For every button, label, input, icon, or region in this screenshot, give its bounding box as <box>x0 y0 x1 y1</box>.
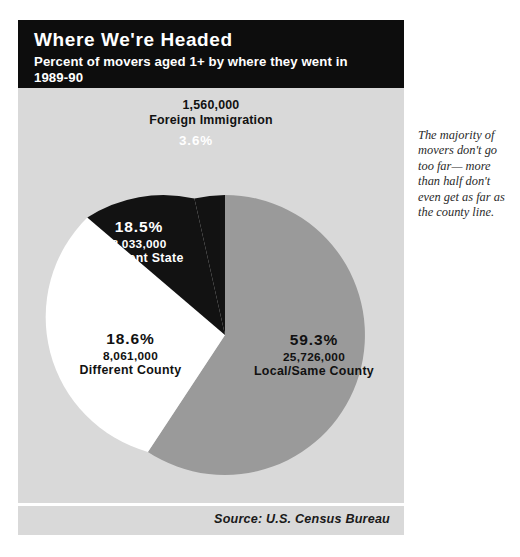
slice-percent-different-county: 18.6% <box>53 332 208 346</box>
pie-chart: 1,560,000 Foreign Immigration 3.6% 18.5%… <box>18 88 404 503</box>
source-attribution: Source: U.S. Census Bureau <box>214 512 390 526</box>
slice-percent-foreign-immigration: 3.6% <box>161 134 231 148</box>
slice-label-different-state: 18.5% 8,033,000 Different State <box>64 220 214 265</box>
slice-count-different-county: 8,061,000 <box>53 349 208 363</box>
pie-chart-svg <box>18 88 404 503</box>
page-title: Where We're Headed <box>34 29 404 51</box>
slice-name-different-county: Different County <box>53 363 208 377</box>
slice-name-local-same-county: Local/Same County <box>230 364 398 378</box>
callout-foreign-value: 1,560,000 <box>183 98 240 112</box>
callout-foreign-label: Foreign Immigration <box>149 113 273 127</box>
slice-label-different-county: 18.6% 8,061,000 Different County <box>53 332 208 377</box>
slice-percent-local-same-county: 59.3% <box>230 333 398 347</box>
pull-quote: The majority of movers don't go too far—… <box>418 128 512 220</box>
infographic-panel: Where We're Headed Percent of movers age… <box>18 20 404 535</box>
figure-header: Where We're Headed Percent of movers age… <box>18 20 404 88</box>
slice-percent-different-state: 18.5% <box>64 220 214 234</box>
slice-count-local-same-county: 25,726,000 <box>230 350 398 364</box>
slice-label-local-same-county: 59.3% 25,726,000 Local/Same County <box>230 333 398 378</box>
figure-subtitle: Percent of movers aged 1+ by where they … <box>34 54 374 85</box>
callout-foreign-immigration: 1,560,000 Foreign Immigration <box>18 98 404 127</box>
slice-count-different-state: 8,033,000 <box>64 237 214 251</box>
slice-label-foreign-immigration: 3.6% <box>161 134 231 148</box>
slice-name-different-state: Different State <box>64 251 214 265</box>
